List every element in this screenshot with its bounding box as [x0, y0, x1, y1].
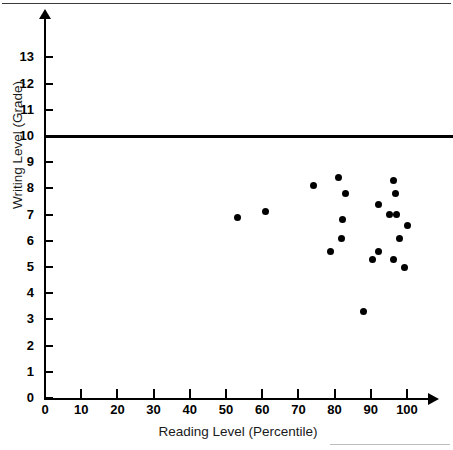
x-tick-mark	[370, 389, 372, 398]
data-point	[369, 256, 376, 263]
data-point	[392, 190, 399, 197]
x-tick-mark	[334, 389, 336, 398]
data-point	[360, 308, 367, 315]
data-point	[262, 208, 269, 215]
data-point	[396, 235, 403, 242]
y-tick-label: 4	[8, 286, 34, 299]
y-tick-mark	[46, 187, 53, 189]
data-point	[375, 248, 382, 255]
x-tick-label: 50	[206, 403, 246, 416]
y-tick-mark	[46, 109, 53, 111]
data-point	[335, 174, 342, 181]
x-tick-label: 40	[170, 403, 210, 416]
y-tick-mark	[46, 345, 53, 347]
data-point	[327, 248, 334, 255]
y-tick-mark	[46, 371, 53, 373]
data-point	[375, 201, 382, 208]
y-tick-label: 1	[8, 365, 34, 378]
x-tick-label: 90	[351, 403, 391, 416]
x-tick-mark	[116, 389, 118, 398]
y-tick-mark	[46, 161, 53, 163]
y-tick-mark	[46, 240, 53, 242]
data-point	[310, 182, 317, 189]
y-axis-line	[44, 16, 46, 400]
y-tick-mark	[46, 83, 53, 85]
y-tick-mark	[46, 214, 53, 216]
data-point	[404, 222, 411, 229]
data-point	[390, 177, 397, 184]
x-tick-mark	[44, 389, 46, 398]
data-point	[390, 256, 397, 263]
x-tick-mark	[80, 389, 82, 398]
y-tick-mark	[46, 266, 53, 268]
x-tick-label: 0	[25, 403, 65, 416]
y-axis-arrow-icon	[39, 9, 51, 19]
x-axis-label: Reading Level (Percentile)	[44, 424, 432, 440]
x-tick-label: 80	[315, 403, 355, 416]
x-tick-label: 30	[134, 403, 174, 416]
x-tick-label: 20	[97, 403, 137, 416]
data-point	[342, 190, 349, 197]
y-axis-label-wrapper: Writing Level (Grade)	[9, 45, 27, 245]
x-tick-mark	[406, 389, 408, 398]
x-tick-mark	[153, 389, 155, 398]
x-tick-mark	[189, 389, 191, 398]
plot-area: 012345678910111213 010203040506070809010…	[0, 0, 453, 450]
y-tick-mark	[46, 318, 53, 320]
y-tick-mark	[46, 56, 53, 58]
data-point	[393, 211, 400, 218]
y-tick-label: 3	[8, 312, 34, 325]
x-tick-label: 100	[387, 403, 427, 416]
data-point	[234, 214, 241, 221]
scatter-plot-figure: 012345678910111213 010203040506070809010…	[0, 0, 453, 450]
x-axis-line	[44, 398, 429, 400]
y-axis-label: Writing Level (Grade)	[9, 45, 27, 245]
x-tick-label: 10	[61, 403, 101, 416]
y-tick-mark	[46, 292, 53, 294]
y-tick-label: 2	[8, 339, 34, 352]
data-point	[339, 216, 346, 223]
x-tick-mark	[261, 389, 263, 398]
y-tick-label: 5	[8, 260, 34, 273]
y-tick-mark	[46, 397, 53, 399]
x-tick-mark	[225, 389, 227, 398]
x-tick-label: 70	[278, 403, 318, 416]
data-point	[401, 264, 408, 271]
grade-level-reference-line	[45, 135, 453, 138]
x-axis-arrow-icon	[428, 393, 439, 405]
x-tick-mark	[297, 389, 299, 398]
data-point	[338, 235, 345, 242]
x-tick-label: 60	[242, 403, 282, 416]
